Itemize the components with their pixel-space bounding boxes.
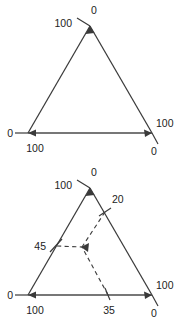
ternary-diagram-svg: 0 100 0 100 100 0	[0, 0, 178, 334]
lower-bottom-left-outer-label: 0	[7, 289, 13, 301]
tick-label-20: 20	[112, 193, 124, 205]
upper-apex-outer-label: 0	[91, 4, 97, 16]
lower-apex-tick	[77, 180, 90, 188]
upper-bottom-right-tick	[152, 133, 158, 144]
upper-bottom-right-inner-label: 0	[151, 145, 157, 157]
lower-bottom-right-outer-label: 100	[156, 279, 174, 291]
upper-apex-arrowhead	[86, 26, 95, 34]
lower-apex-outer-label: 0	[91, 166, 97, 178]
dashed-line-from-35	[82, 247, 108, 295]
upper-bottom-right-outer-label: 100	[156, 117, 174, 129]
lower-bottom-right-tick	[152, 295, 158, 306]
upper-apex-inner-label: 100	[54, 17, 72, 29]
ternary-figure-root: 0 100 0 100 100 0	[0, 0, 178, 334]
lower-bottom-left-inner-label: 100	[26, 304, 44, 316]
upper-left-edge	[28, 26, 90, 133]
tick-45-mark	[50, 239, 62, 252]
lower-apex-inner-label: 100	[54, 179, 72, 191]
lower-apex-arrowhead	[86, 188, 95, 196]
tick-label-35: 35	[103, 304, 115, 316]
upper-ternary-panel: 0 100 0 100 100 0	[7, 4, 174, 157]
upper-bottom-left-inner-label: 100	[26, 142, 44, 154]
tick-label-45: 45	[34, 240, 46, 252]
dashed-line-from-20	[82, 212, 105, 247]
plotted-point-arrowhead	[81, 243, 89, 252]
dashed-line-from-45	[57, 246, 82, 247]
upper-apex-tick	[77, 18, 90, 26]
lower-bottom-right-inner-label: 0	[151, 307, 157, 319]
upper-bottom-left-outer-label: 0	[7, 127, 13, 139]
upper-right-edge	[90, 26, 152, 133]
lower-ternary-panel: 20 45 35 0 100 0 100 100 0	[7, 166, 174, 319]
